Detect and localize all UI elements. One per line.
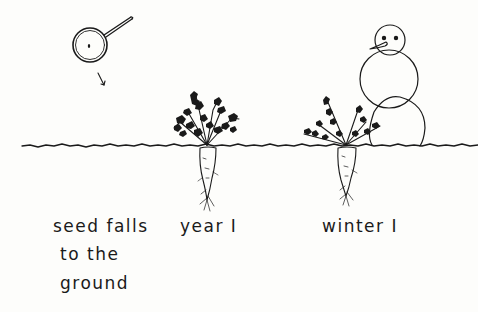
carrot-life-cycle-illustration — [0, 0, 478, 312]
ground-line — [22, 144, 478, 147]
stage-label-winter1: winter I — [322, 218, 398, 235]
falling-arrow-icon — [98, 73, 105, 85]
seed-icon — [88, 44, 90, 48]
carrot-plant-winter1-icon — [304, 96, 380, 206]
magnifier-icon — [73, 17, 133, 62]
snowman-icon — [360, 25, 425, 146]
stage-label-seed-line1: seed falls — [53, 218, 149, 235]
stage-label-year1: year I — [180, 218, 237, 235]
carrot-plant-year1-icon — [174, 91, 239, 211]
stage-label-seed-line3: ground — [60, 275, 129, 292]
stage-label-seed-line2: to the — [60, 246, 119, 263]
